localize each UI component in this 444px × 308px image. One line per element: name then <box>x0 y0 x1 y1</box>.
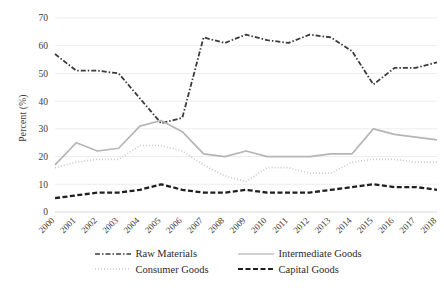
legend-label-consumer-goods: Consumer Goods <box>136 264 209 276</box>
x-axis-tick-label: 2009 <box>228 215 248 235</box>
x-axis-tick-label: 2007 <box>185 215 205 235</box>
x-axis-tick-label: 2000 <box>37 215 57 235</box>
x-axis-tick-label: 2008 <box>206 215 226 235</box>
chart-plot-area: Percent (%) 0102030405060702000200120022… <box>0 0 444 250</box>
x-axis-tick-label: 2016 <box>376 215 396 235</box>
x-axis-tick-label: 2012 <box>291 215 311 235</box>
y-axis-tick-label: 20 <box>39 152 49 162</box>
x-axis-tick-label: 2017 <box>397 215 417 235</box>
y-axis-title: Percent (%) <box>18 94 28 141</box>
x-axis-tick-label: 2003 <box>100 215 120 235</box>
series-line <box>55 35 437 124</box>
y-axis-tick-label: 70 <box>39 13 49 23</box>
legend-swatch-intermediate-goods <box>238 249 274 259</box>
y-axis-tick-label: 50 <box>39 69 49 79</box>
legend-item-raw-materials[interactable]: Raw Materials <box>95 248 230 260</box>
y-axis-tick-label: 30 <box>39 124 49 134</box>
y-axis-tick-label: 10 <box>39 180 49 190</box>
x-axis-tick-label: 2001 <box>58 215 78 235</box>
line-chart: 0102030405060702000200120022003200420052… <box>0 0 444 250</box>
x-axis-tick-label: 2004 <box>122 215 142 235</box>
legend-swatch-consumer-goods <box>95 264 131 274</box>
chart-legend: Raw Materials Intermediate Goods Consume… <box>0 248 444 292</box>
y-axis-tick-label: 60 <box>39 41 49 51</box>
legend-label-capital-goods: Capital Goods <box>279 264 339 276</box>
x-axis-tick-label: 2006 <box>164 215 184 235</box>
x-axis-tick-label: 2010 <box>249 215 269 235</box>
legend-swatch-capital-goods <box>238 264 274 274</box>
legend-swatch-raw-materials <box>95 249 131 259</box>
legend-item-intermediate-goods[interactable]: Intermediate Goods <box>238 248 438 260</box>
y-axis-tick-label: 40 <box>39 97 49 107</box>
x-axis-tick-label: 2005 <box>143 215 163 235</box>
legend-item-consumer-goods[interactable]: Consumer Goods <box>95 264 230 276</box>
x-axis-tick-label: 2015 <box>355 215 375 235</box>
series-line <box>55 184 437 198</box>
x-axis-tick-label: 2002 <box>79 215 99 235</box>
x-axis-tick-label: 2018 <box>419 215 439 235</box>
legend-item-capital-goods[interactable]: Capital Goods <box>238 264 438 276</box>
legend-label-raw-materials: Raw Materials <box>136 248 198 260</box>
series-line <box>55 121 437 165</box>
x-axis-tick-label: 2011 <box>270 215 290 235</box>
legend-label-intermediate-goods: Intermediate Goods <box>279 248 362 260</box>
x-axis-tick-label: 2014 <box>334 215 354 235</box>
x-axis-tick-label: 2013 <box>313 215 333 235</box>
figure: Percent (%) 0102030405060702000200120022… <box>0 0 444 308</box>
